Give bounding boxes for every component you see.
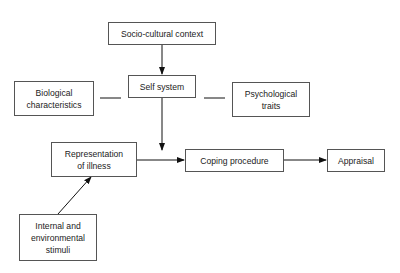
node-label: Coping procedure	[200, 155, 268, 167]
node-internal-environmental-stimuli: Internal and environmental stimuli	[19, 214, 97, 261]
node-appraisal: Appraisal	[327, 149, 385, 172]
node-label-line1: Representation	[65, 148, 123, 160]
node-label: Socio-cultural context	[121, 28, 203, 40]
node-self-system: Self system	[128, 75, 196, 98]
node-label: Appraisal	[338, 155, 374, 167]
node-label-line2: characteristics	[27, 99, 82, 111]
node-label-line1: Biological	[36, 87, 73, 99]
node-label-line2: traits	[262, 100, 281, 112]
diagram-canvas: Socio-cultural context Self system Biolo…	[0, 0, 400, 273]
node-label-line2: environmental	[31, 232, 85, 244]
node-coping-procedure: Coping procedure	[185, 149, 284, 172]
arrow-stimuli-to-rep	[58, 177, 91, 214]
node-representation-of-illness: Representation of illness	[51, 142, 137, 177]
node-label-line1: Internal and	[35, 220, 80, 232]
node-biological-characteristics: Biological characteristics	[14, 81, 94, 116]
node-label-line3: stimuli	[46, 244, 70, 256]
node-socio-cultural-context: Socio-cultural context	[108, 22, 216, 45]
node-psychological-traits: Psychological traits	[232, 82, 310, 117]
node-label: Self system	[140, 81, 184, 93]
node-label-line1: Psychological	[245, 88, 298, 100]
node-label-line2: of illness	[77, 160, 110, 172]
